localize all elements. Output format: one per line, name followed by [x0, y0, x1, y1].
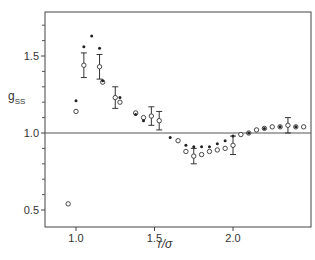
filled-dot-point — [200, 145, 203, 148]
open-circle-point — [118, 100, 122, 104]
open-circle-point — [199, 152, 203, 156]
filled-dot-point — [184, 144, 187, 147]
open-circle-point — [113, 95, 117, 99]
open-circle-point — [223, 146, 227, 150]
filled-dot-point — [134, 113, 137, 116]
filled-dot-point — [294, 125, 297, 128]
open-circle-point — [184, 149, 188, 153]
series-filled-dots — [75, 34, 298, 148]
plot-frame — [45, 12, 311, 227]
open-circle-point — [207, 149, 211, 153]
x-axis-label: r/σ — [158, 237, 173, 251]
open-circle-point — [270, 125, 274, 129]
open-circle-point — [215, 148, 219, 152]
open-circle-point — [176, 139, 180, 143]
series-open-circles — [66, 53, 306, 206]
open-circle-point — [82, 63, 86, 67]
open-circle-point — [192, 154, 196, 158]
open-circle-point — [97, 65, 101, 69]
filled-dot-point — [232, 135, 235, 138]
filled-dot-point — [263, 127, 266, 130]
filled-dot-point — [279, 125, 282, 128]
y-axis-label: gSS — [8, 89, 25, 106]
filled-dot-point — [118, 96, 121, 99]
open-circle-point — [254, 128, 258, 132]
filled-dot-point — [142, 119, 145, 122]
scatter-chart: 0.51.01.5 1.01.52.0 gSS r/σ — [0, 0, 315, 260]
y-axis-ticks: 0.51.01.5 — [24, 25, 45, 216]
y-tick-label: 1.5 — [24, 50, 39, 62]
open-circle-point — [231, 143, 235, 147]
open-circle-point — [239, 132, 243, 136]
y-axis-label-main: g — [8, 89, 15, 103]
filled-dot-point — [169, 136, 172, 139]
x-axis-ticks: 1.01.52.0 — [68, 227, 240, 244]
x-tick-label: 1.0 — [68, 232, 83, 244]
filled-dot-point — [216, 142, 219, 145]
filled-dot-point — [75, 99, 78, 102]
filled-dot-point — [247, 132, 250, 135]
filled-dot-point — [208, 145, 211, 148]
open-circle-point — [286, 123, 290, 127]
open-circle-point — [301, 125, 305, 129]
filled-dot-point — [90, 34, 93, 37]
open-circle-point — [141, 115, 145, 119]
y-tick-label: 1.0 — [24, 127, 39, 139]
filled-dot-point — [98, 47, 101, 50]
y-axis-label-sub: SS — [15, 97, 26, 106]
filled-dot-point — [224, 139, 227, 142]
open-circle-point — [66, 202, 70, 206]
open-circle-point — [74, 109, 78, 113]
filled-dot-point — [101, 79, 104, 82]
y-tick-label: 0.5 — [24, 204, 39, 216]
open-circle-point — [157, 118, 161, 122]
filled-dot-point — [192, 145, 195, 148]
open-circle-point — [149, 114, 153, 118]
x-tick-label: 2.0 — [225, 232, 240, 244]
filled-dot-point — [82, 45, 85, 48]
